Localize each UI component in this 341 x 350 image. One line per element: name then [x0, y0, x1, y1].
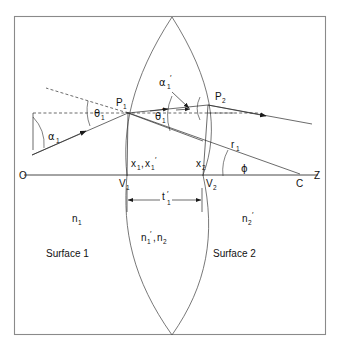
height-label-x1: x	[131, 158, 136, 169]
height-label-x2-subscript: 2	[202, 164, 206, 171]
angle-label-alpha1: α	[48, 131, 55, 142]
index-label-n2-prime-mark: ′	[252, 210, 254, 219]
angle-arc-phi	[223, 150, 228, 176]
index-label-n1-prime: n	[141, 232, 147, 243]
angle-label-phi: ϕ	[241, 163, 248, 174]
angle-arc-alpha1-prime	[197, 97, 200, 120]
angle-label-theta1-prime: θ	[155, 111, 161, 122]
index-label-n1: n	[72, 213, 78, 224]
index-label-n1-prime-mark: ′	[150, 229, 152, 238]
angle-arc-theta1	[87, 101, 90, 126]
index-label-n1-prime-subscript: 1	[147, 238, 151, 245]
lens-surface-1-arc	[126, 17, 172, 335]
optics-diagram-figure: O V 1 V 2 C Z P 1 P 2 α 1 α 1 ′ θ 1 θ 1 …	[0, 0, 341, 350]
exit-ray-arrow	[208, 105, 266, 116]
height-label-x2: x	[196, 158, 201, 169]
axis-label-Z: Z	[314, 170, 320, 181]
angle-label-alpha1-prime: α	[159, 77, 166, 88]
angle-label-alpha1-prime-mark: ′	[170, 73, 172, 82]
angle-label-theta1-prime-mark: ′	[162, 106, 164, 115]
thickness-label-t1-prime-mark: ′	[167, 189, 169, 198]
thickness-label-t1-prime: t	[162, 191, 165, 202]
index-label-n2-subscript: 2	[163, 238, 167, 245]
axis-label-V2-subscript: 2	[213, 184, 217, 191]
index-label-n1-subscript: 1	[78, 219, 82, 226]
point-label-P1: P	[116, 97, 123, 108]
surface-label-1: Surface 1	[46, 248, 89, 259]
height-line-x1	[127, 113, 128, 176]
index-label-n2: n	[157, 232, 163, 243]
index-label-n2-prime: n	[242, 213, 248, 224]
height-label-x1-prime: x	[145, 158, 150, 169]
angle-label-theta1-subscript: 1	[101, 114, 105, 121]
height-label-x1-prime-subscript: 1	[151, 164, 155, 171]
axis-label-V1-subscript: 1	[126, 184, 130, 191]
angle-arc-theta1-prime	[168, 96, 172, 131]
angle-label-theta1-prime-subscript: 1	[162, 117, 166, 124]
lens-surface-2-arc	[172, 17, 211, 335]
figure-border	[15, 17, 326, 335]
point-label-P2-subscript: 2	[222, 97, 226, 104]
angle-label-theta1: θ	[94, 108, 100, 119]
index-label-n2-prime-subscript: 2	[248, 219, 252, 226]
radius-label-r1-subscript: 1	[236, 145, 240, 152]
surface-label-2: Surface 2	[213, 248, 256, 259]
alpha1-prime-leader-line	[172, 92, 189, 108]
point-label-P2: P	[215, 91, 222, 102]
height-label-separator: ,	[141, 158, 144, 169]
radius-label-r1: r	[231, 139, 235, 150]
angle-label-alpha1-subscript: 1	[56, 137, 60, 144]
axis-label-O: O	[19, 170, 27, 181]
thickness-label-t1-subscript: 1	[167, 199, 171, 206]
index-label-separator: ,	[153, 232, 156, 243]
internal-ray-arrow-2	[176, 109, 190, 110]
axis-label-C: C	[296, 178, 303, 189]
axis-label-V2: V	[206, 178, 213, 189]
angle-arc-alpha1	[33, 117, 44, 148]
angle-label-alpha1-prime-subscript: 1	[167, 83, 171, 90]
point-label-P1-subscript: 1	[123, 103, 127, 110]
height-label-x1-prime-mark: ′	[155, 155, 157, 164]
axis-label-V1: V	[119, 178, 126, 189]
diagram-canvas: O V 1 V 2 C Z P 1 P 2 α 1 α 1 ′ θ 1 θ 1 …	[0, 0, 341, 350]
